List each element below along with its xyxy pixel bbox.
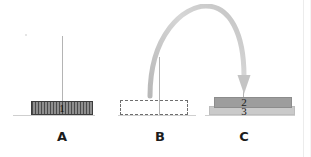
panel-caption-c: C [234, 129, 254, 144]
panel-a: 1 A [0, 0, 110, 157]
panel-caption-b: B [150, 129, 170, 144]
panel-caption-a: A [52, 129, 72, 144]
panel-c: 2 3 C [200, 0, 305, 157]
number-label-3: 3 [238, 106, 250, 117]
panel-b: B [110, 0, 200, 157]
dashed-outline-b [120, 100, 188, 115]
ground-line-a [13, 115, 95, 116]
stacked-bar-top-c [214, 97, 292, 108]
diagram-canvas: 1 A B 2 3 C [0, 0, 311, 157]
number-label-1: 1 [56, 103, 68, 114]
ground-line-c [205, 115, 295, 116]
frame-line-far-right [310, 0, 311, 157]
ground-line-b [118, 115, 196, 116]
